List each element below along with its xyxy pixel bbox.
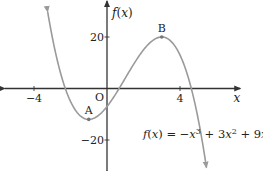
x-tick-label: 4 [177,92,184,105]
origin-label: O [95,91,104,104]
function-graph: −4420−20 AB f(x) x O f(x) = −x3 + 3x2 + … [0,0,263,171]
point-a [87,118,91,122]
function-equation-label: f(x) = −x3 + 3x2 + 9x − 7 [142,127,263,141]
point-label-a: A [84,104,94,117]
y-tick-label: 20 [90,31,104,44]
function-curve [48,12,207,168]
y-tick-label: −20 [81,134,104,147]
x-tick-label: −4 [26,92,42,105]
x-axis-label: x [234,91,241,105]
y-axis-label: f(x) [111,6,133,20]
point-b [160,35,164,39]
point-label-b: B [158,22,166,35]
